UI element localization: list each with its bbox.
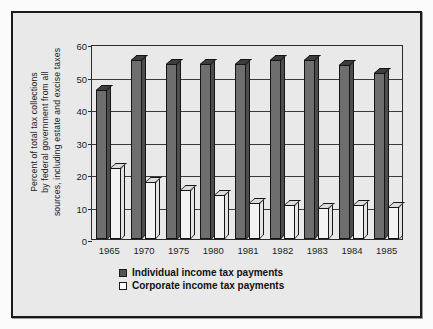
y-axis-title: Percent of total tax collections by fede… [23, 16, 69, 248]
y-tick-label: 40 [76, 106, 87, 117]
bar-face [353, 205, 364, 239]
bar-side [225, 190, 229, 239]
x-tick-label: 1985 [376, 245, 397, 256]
chart-legend: Individual income tax payments Corporate… [119, 266, 284, 292]
bar-side [281, 55, 285, 239]
bar-side [385, 68, 389, 239]
bar-side [399, 202, 403, 239]
x-tick-label: 1983 [307, 245, 328, 256]
bar-side [364, 200, 368, 239]
bar-group [265, 46, 300, 239]
bars-layer [92, 46, 402, 239]
y-axis-title-line-1: Percent of total tax collections [29, 72, 40, 192]
bar-chart: Percent of total tax collections by fede… [13, 13, 420, 316]
bar-side [107, 85, 111, 239]
bar-face [200, 64, 211, 240]
bar-corporate-1983 [318, 208, 329, 239]
bar-face [131, 60, 142, 239]
bar-individual-1982 [270, 60, 281, 239]
figure-frame: Percent of total tax collections by fede… [11, 11, 422, 318]
bar-corporate-1985 [388, 207, 399, 240]
bar-individual-1975 [166, 64, 177, 240]
bar-face [249, 203, 260, 239]
bar-side [329, 203, 333, 239]
bar-face [96, 90, 107, 240]
legend-swatch-icon [119, 282, 127, 290]
bar-group [300, 46, 335, 239]
bar-corporate-1980 [214, 195, 225, 239]
y-tick-label: 0 [82, 236, 87, 247]
bar-group [231, 46, 266, 239]
bar-corporate-1970 [145, 182, 156, 239]
y-tick-label: 10 [76, 203, 87, 214]
bar-face [388, 207, 399, 240]
x-tick-label: 1980 [203, 245, 224, 256]
figure-page: Percent of total tax collections by fede… [0, 0, 433, 329]
bar-corporate-1975 [180, 190, 191, 239]
x-tick-label: 1984 [341, 245, 362, 256]
legend-item-corporate: Corporate income tax payments [119, 279, 284, 292]
bar-side [295, 200, 299, 239]
bar-side [211, 59, 215, 239]
bar-individual-1984 [339, 65, 350, 239]
legend-swatch-icon [119, 269, 127, 277]
bar-face [270, 60, 281, 239]
legend-label: Corporate income tax payments [132, 280, 284, 291]
bar-face [374, 73, 385, 239]
plot-area: 0102030405060 19651970197519801981198219… [91, 45, 403, 240]
bar-side [350, 60, 354, 239]
bar-group [161, 46, 196, 239]
bar-individual-1985 [374, 73, 385, 239]
y-tick-label: 60 [76, 41, 87, 52]
bar-group [335, 46, 370, 239]
bar-face [166, 64, 177, 240]
bar-face [214, 195, 225, 239]
y-axis-title-line-3: sources, including estate and excise tax… [52, 48, 63, 216]
bar-corporate-1965 [110, 168, 121, 240]
bar-group [127, 46, 162, 239]
y-axis-title-line-2: by federal government from all [40, 71, 51, 192]
bar-face [339, 65, 350, 239]
bar-individual-1980 [200, 64, 211, 240]
y-tick-mark [88, 241, 92, 242]
bar-side [260, 198, 264, 239]
bar-side [156, 177, 160, 239]
bar-side [177, 59, 181, 239]
legend-label: Individual income tax payments [132, 267, 283, 278]
bar-face [318, 208, 329, 239]
bar-individual-1970 [131, 60, 142, 239]
bar-face [304, 60, 315, 239]
bar-group [369, 46, 404, 239]
bar-group [196, 46, 231, 239]
bar-side [191, 185, 195, 239]
y-tick-label: 50 [76, 73, 87, 84]
x-tick-label: 1970 [133, 245, 154, 256]
bar-face [180, 190, 191, 239]
y-tick-label: 30 [76, 138, 87, 149]
bar-face [110, 168, 121, 240]
bar-face [145, 182, 156, 239]
bar-individual-1965 [96, 90, 107, 240]
bar-side [121, 163, 125, 239]
bar-face [284, 205, 295, 239]
bar-corporate-1984 [353, 205, 364, 239]
legend-item-individual: Individual income tax payments [119, 266, 284, 279]
bar-individual-1983 [304, 60, 315, 239]
bar-group [92, 46, 127, 239]
bar-corporate-1981 [249, 203, 260, 239]
x-tick-label: 1981 [237, 245, 258, 256]
y-tick-label: 20 [76, 171, 87, 182]
x-tick-label: 1975 [168, 245, 189, 256]
bar-individual-1981 [235, 64, 246, 240]
bar-side [315, 55, 319, 239]
x-tick-label: 1982 [272, 245, 293, 256]
x-tick-label: 1965 [99, 245, 120, 256]
bar-face [235, 64, 246, 240]
bar-corporate-1982 [284, 205, 295, 239]
bar-side [246, 59, 250, 239]
bar-side [142, 55, 146, 239]
